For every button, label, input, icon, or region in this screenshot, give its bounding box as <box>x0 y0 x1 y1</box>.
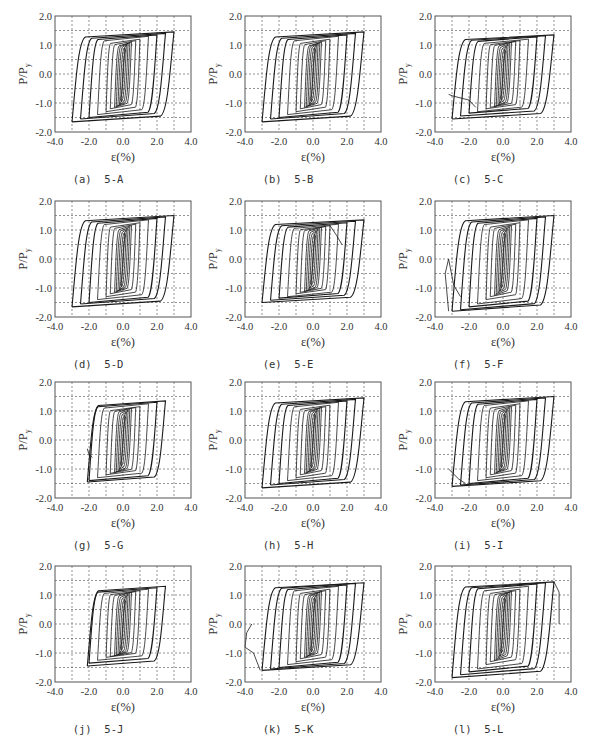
x-axis-label: ε(%) <box>491 700 515 714</box>
hysteresis-curves <box>87 401 165 482</box>
hysteresis-curves <box>245 583 364 671</box>
hysteresis-plot: 2.01.00.0-1.0-2.0-4.0-2.00.02.04.0ε(%)P/… <box>190 366 386 526</box>
y-tick-label: 0.0 <box>419 619 432 630</box>
x-tick-label: -4.0 <box>237 321 254 332</box>
hysteresis-plot: 2.01.00.0-1.0-2.0-4.0-2.00.02.04.0ε(%)P/… <box>0 550 196 710</box>
x-tick-label: -4.0 <box>47 321 64 332</box>
y-tick-label: 0.0 <box>39 69 52 80</box>
hysteresis-plot: 2.01.00.0-1.0-2.0-4.0-2.00.02.04.0ε(%)P/… <box>0 185 196 345</box>
x-tick-label: -4.0 <box>427 136 444 147</box>
x-tick-label: -4.0 <box>237 136 254 147</box>
y-tick-label: 1.0 <box>39 590 52 601</box>
x-tick-label: -2.0 <box>461 136 478 147</box>
x-tick-label: 2.0 <box>150 136 163 147</box>
chart-panel-l: 2.01.00.0-1.0-2.0-4.0-2.00.02.04.0ε(%)P/… <box>380 550 576 734</box>
chart-panel-h: 2.01.00.0-1.0-2.0-4.0-2.00.02.04.0ε(%)P/… <box>190 366 386 550</box>
y-tick-label: 1.0 <box>39 406 52 417</box>
hysteresis-plot: 2.01.00.0-1.0-2.0-4.0-2.00.02.04.0ε(%)P/… <box>190 550 386 710</box>
x-tick-label: 2.0 <box>340 686 353 697</box>
hysteresis-curves <box>452 582 559 678</box>
y-tick-label: 0.0 <box>419 435 432 446</box>
x-tick-label: -4.0 <box>427 686 444 697</box>
x-tick-label: 0.0 <box>116 686 129 697</box>
hysteresis-plot: 2.01.00.0-1.0-2.0-4.0-2.00.02.04.0ε(%)P/… <box>380 366 576 526</box>
y-tick-label: -1.0 <box>415 98 432 109</box>
x-tick-label: -2.0 <box>81 321 98 332</box>
x-axis-label: ε(%) <box>111 150 135 164</box>
hysteresis-curves <box>262 220 364 303</box>
hysteresis-plot: 2.01.00.0-1.0-2.0-4.0-2.00.02.04.0ε(%)P/… <box>0 366 196 526</box>
y-tick-label: 1.0 <box>419 225 432 236</box>
y-tick-label: -1.0 <box>415 648 432 659</box>
y-tick-label: 2.0 <box>229 561 242 572</box>
hysteresis-plot: 2.01.00.0-1.0-2.0-4.0-2.00.02.04.0ε(%)P/… <box>190 185 386 345</box>
x-tick-label: -4.0 <box>237 686 254 697</box>
chart-caption: (k) 5-K <box>190 723 386 735</box>
y-tick-label: 0.0 <box>229 69 242 80</box>
x-tick-label: -2.0 <box>81 502 98 513</box>
x-tick-label: 0.0 <box>116 321 129 332</box>
y-tick-label: -1.0 <box>35 464 52 475</box>
x-tick-label: -2.0 <box>271 136 288 147</box>
y-tick-label: 1.0 <box>229 590 242 601</box>
hysteresis-curves <box>449 397 554 487</box>
y-axis-label: P/Py <box>206 248 222 269</box>
chart-caption: (b) 5-B <box>190 173 386 185</box>
y-tick-label: 2.0 <box>229 377 242 388</box>
x-tick-label: 4.0 <box>564 502 577 513</box>
x-tick-label: 0.0 <box>496 321 509 332</box>
x-tick-label: 4.0 <box>564 321 577 332</box>
x-tick-label: -2.0 <box>271 502 288 513</box>
y-axis-label: P/Py <box>16 63 32 84</box>
x-tick-label: 0.0 <box>116 136 129 147</box>
x-tick-label: 0.0 <box>306 136 319 147</box>
x-axis-label: ε(%) <box>491 335 515 349</box>
y-tick-label: 2.0 <box>39 561 52 572</box>
hysteresis-plot: 2.01.00.0-1.0-2.0-4.0-2.00.02.04.0ε(%)P/… <box>380 185 576 345</box>
x-tick-label: 0.0 <box>496 502 509 513</box>
chart-caption: (a) 5-A <box>0 173 196 185</box>
chart-panel-e: 2.01.00.0-1.0-2.0-4.0-2.00.02.04.0ε(%)P/… <box>190 185 386 369</box>
x-axis-label: ε(%) <box>301 335 325 349</box>
y-tick-label: 2.0 <box>419 377 432 388</box>
x-tick-label: -2.0 <box>271 321 288 332</box>
y-tick-label: 0.0 <box>39 435 52 446</box>
chart-caption: (j) 5-J <box>0 723 196 735</box>
x-tick-label: 0.0 <box>496 136 509 147</box>
x-tick-label: 4.0 <box>564 136 577 147</box>
chart-panel-b: 2.01.00.0-1.0-2.0-4.0-2.00.02.04.0ε(%)P/… <box>190 0 386 184</box>
x-axis-label: ε(%) <box>301 150 325 164</box>
x-tick-label: 2.0 <box>530 502 543 513</box>
y-tick-label: -1.0 <box>415 283 432 294</box>
x-axis-label: ε(%) <box>301 700 325 714</box>
y-axis-label: P/Py <box>396 429 412 450</box>
hysteresis-plot: 2.01.00.0-1.0-2.0-4.0-2.00.02.04.0ε(%)P/… <box>190 0 386 160</box>
chart-panel-g: 2.01.00.0-1.0-2.0-4.0-2.00.02.04.0ε(%)P/… <box>0 366 196 550</box>
x-axis-label: ε(%) <box>111 516 135 530</box>
x-tick-label: 2.0 <box>530 321 543 332</box>
chart-panel-i: 2.01.00.0-1.0-2.0-4.0-2.00.02.04.0ε(%)P/… <box>380 366 576 550</box>
x-tick-label: -2.0 <box>461 686 478 697</box>
x-axis-label: ε(%) <box>301 516 325 530</box>
x-tick-label: -2.0 <box>81 686 98 697</box>
y-tick-label: 0.0 <box>419 254 432 265</box>
x-axis-label: ε(%) <box>491 150 515 164</box>
x-tick-label: 2.0 <box>150 686 163 697</box>
y-tick-label: 2.0 <box>419 11 432 22</box>
x-axis-label: ε(%) <box>111 700 135 714</box>
y-axis-label: P/Py <box>396 63 412 84</box>
x-tick-label: 2.0 <box>530 136 543 147</box>
chart-caption: (l) 5-L <box>380 723 576 735</box>
x-tick-label: -4.0 <box>47 686 64 697</box>
hysteresis-plot: 2.01.00.0-1.0-2.0-4.0-2.00.02.04.0ε(%)P/… <box>380 550 576 710</box>
y-tick-label: 1.0 <box>419 590 432 601</box>
y-tick-label: 0.0 <box>39 254 52 265</box>
x-tick-label: -4.0 <box>237 502 254 513</box>
chart-caption: (c) 5-C <box>380 173 576 185</box>
hysteresis-plot: 2.01.00.0-1.0-2.0-4.0-2.00.02.04.0ε(%)P/… <box>380 0 576 160</box>
y-tick-label: -1.0 <box>225 98 242 109</box>
chart-panel-a: 2.01.00.0-1.0-2.0-4.0-2.00.02.04.0ε(%)P/… <box>0 0 196 184</box>
y-tick-label: 0.0 <box>39 619 52 630</box>
chart-panel-k: 2.01.00.0-1.0-2.0-4.0-2.00.02.04.0ε(%)P/… <box>190 550 386 734</box>
y-axis-label: P/Py <box>206 63 222 84</box>
